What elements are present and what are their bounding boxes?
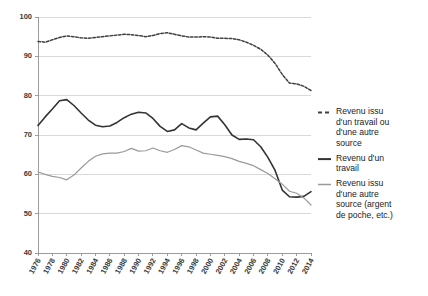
legend-label-0: source bbox=[336, 138, 362, 148]
x-tick-label: 1998 bbox=[185, 257, 201, 276]
legend-label-2: d'une autre bbox=[336, 189, 379, 199]
y-tick-label: 60 bbox=[24, 169, 32, 178]
chart-container: 405060708090100 197619781980198219841986… bbox=[0, 0, 428, 296]
x-tick-label: 1978 bbox=[41, 257, 57, 276]
series-line-0 bbox=[38, 33, 311, 91]
legend-label-2: source (argent bbox=[336, 199, 392, 209]
x-tick-label: 1984 bbox=[84, 256, 100, 276]
legend-label-0: d'une autre bbox=[336, 127, 379, 137]
x-tick-label: 2002 bbox=[214, 257, 230, 276]
y-tick-label: 80 bbox=[24, 91, 32, 100]
x-tick-label: 1990 bbox=[127, 257, 143, 276]
line-chart: 405060708090100 197619781980198219841986… bbox=[0, 0, 428, 296]
legend-label-1: travail bbox=[336, 163, 359, 173]
y-tick-label: 100 bbox=[19, 12, 32, 21]
x-tick-label: 2000 bbox=[199, 257, 215, 276]
x-tick-label: 2004 bbox=[228, 256, 244, 276]
y-tick-label: 70 bbox=[24, 130, 32, 139]
x-tick-label: 2006 bbox=[242, 257, 258, 276]
x-tick-label: 1996 bbox=[170, 257, 186, 276]
x-tick-label: 2014 bbox=[300, 256, 316, 276]
legend-label-2: Revenu issu bbox=[336, 178, 384, 188]
x-tick-label: 1980 bbox=[56, 257, 72, 276]
x-tick-label: 1994 bbox=[156, 256, 172, 276]
x-tick-label: 1976 bbox=[27, 257, 43, 276]
x-tick-label: 1986 bbox=[99, 257, 115, 276]
x-axis: 1976197819801982198419861988199019921994… bbox=[27, 253, 316, 276]
legend-label-0: Revenu issu bbox=[336, 106, 384, 116]
x-tick-label: 2008 bbox=[257, 257, 273, 276]
x-tick-label: 1992 bbox=[142, 257, 158, 276]
chart-legend: Revenu issud'un travail oud'une autresou… bbox=[318, 106, 393, 220]
x-tick-label: 2012 bbox=[285, 257, 301, 276]
y-tick-label: 50 bbox=[24, 209, 32, 218]
x-tick-label: 2010 bbox=[271, 257, 287, 276]
series-layer bbox=[38, 33, 311, 205]
legend-label-0: d'un travail ou bbox=[336, 117, 389, 127]
y-tick-label: 40 bbox=[24, 248, 32, 257]
y-tick-label: 90 bbox=[24, 51, 32, 60]
x-tick-label: 1982 bbox=[70, 257, 86, 276]
grid-lines bbox=[38, 17, 311, 253]
series-line-2 bbox=[38, 146, 311, 205]
legend-label-2: de poche, etc.) bbox=[336, 210, 393, 220]
y-axis: 405060708090100 bbox=[19, 12, 38, 257]
legend-label-1: Revenu d'un bbox=[336, 153, 384, 163]
series-line-1 bbox=[38, 100, 311, 198]
x-tick-label: 1988 bbox=[113, 257, 129, 276]
